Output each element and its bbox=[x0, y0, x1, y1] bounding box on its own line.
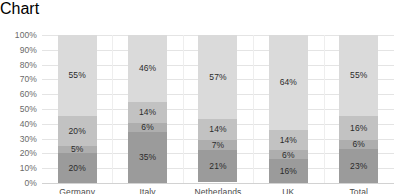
bar-segment[interactable]: 55% bbox=[339, 35, 378, 116]
bar-segment[interactable]: 5% bbox=[58, 146, 97, 153]
bar-segment[interactable]: 16% bbox=[339, 116, 378, 140]
stacked-bar[interactable]: 55%20%5%20% bbox=[58, 35, 97, 183]
bar-segment[interactable]: 6% bbox=[339, 140, 378, 149]
y-axis-tick-label: 30% bbox=[20, 134, 37, 144]
bar-segment[interactable]: 35% bbox=[128, 132, 167, 183]
bar-segment-value-label: 55% bbox=[350, 71, 367, 80]
bar-column: 64%14%6%16% bbox=[253, 35, 323, 183]
bar-column: 46%14%6%35% bbox=[112, 35, 182, 183]
bar-segment[interactable]: 14% bbox=[269, 130, 308, 151]
bar-segment[interactable]: 6% bbox=[128, 123, 167, 132]
y-axis-tick-label: 80% bbox=[20, 60, 37, 70]
x-axis-category-label: Italy bbox=[112, 187, 182, 194]
bar-segment-value-label: 14% bbox=[139, 108, 156, 117]
stacked-bar-chart: 100%90%80%70%60%50%40%30%20%10%0% 55%20%… bbox=[0, 18, 407, 194]
bar-segment[interactable]: 20% bbox=[58, 116, 97, 146]
bar-segment-value-label: 6% bbox=[353, 140, 366, 149]
y-axis-tick-label: 10% bbox=[20, 163, 37, 173]
bar-segment-value-label: 55% bbox=[69, 71, 86, 80]
bar-segment-value-label: 14% bbox=[209, 125, 226, 134]
bar-segment[interactable]: 21% bbox=[198, 150, 237, 181]
bar-segment[interactable]: 57% bbox=[198, 35, 237, 119]
bar-segment-value-label: 57% bbox=[209, 73, 226, 82]
bar-segment[interactable]: 7% bbox=[198, 140, 237, 150]
bar-segment-value-label: 21% bbox=[209, 162, 226, 171]
bar-segment-value-label: 64% bbox=[280, 78, 297, 87]
bar-segment[interactable]: 23% bbox=[339, 149, 378, 183]
bar-segment[interactable]: 55% bbox=[58, 35, 97, 116]
x-axis-category-label: Netherlands bbox=[183, 187, 253, 194]
stacked-bar[interactable]: 46%14%6%35% bbox=[128, 35, 167, 183]
x-axis-category-label: Germany bbox=[42, 187, 112, 194]
y-axis-tick-label: 70% bbox=[20, 74, 37, 84]
bar-column: 55%16%6%23% bbox=[324, 35, 394, 183]
bar-segment-value-label: 16% bbox=[350, 124, 367, 133]
y-axis-tick-label: 90% bbox=[20, 45, 37, 55]
y-axis-tick-label: 20% bbox=[20, 148, 37, 158]
bar-segment[interactable]: 64% bbox=[269, 35, 308, 130]
bar-segment-value-label: 14% bbox=[280, 136, 297, 145]
plot-area: 100%90%80%70%60%50%40%30%20%10%0% 55%20%… bbox=[42, 35, 394, 183]
bar-segment-value-label: 6% bbox=[282, 151, 295, 160]
bars-group: 55%20%5%20%46%14%6%35%57%14%7%21%64%14%6… bbox=[42, 35, 394, 183]
bar-segment-value-label: 46% bbox=[139, 64, 156, 73]
bar-segment[interactable]: 14% bbox=[128, 102, 167, 123]
stacked-bar[interactable]: 57%14%7%21% bbox=[198, 35, 237, 183]
stacked-bar[interactable]: 64%14%6%16% bbox=[269, 35, 308, 183]
bar-segment[interactable]: 46% bbox=[128, 35, 167, 102]
y-axis-tick-label: 50% bbox=[20, 104, 37, 114]
bar-segment[interactable]: 6% bbox=[269, 150, 308, 159]
y-axis-tick-label: 0% bbox=[25, 178, 38, 188]
bar-segment[interactable]: 20% bbox=[58, 153, 97, 183]
bar-segment-value-label: 7% bbox=[212, 141, 225, 150]
bar-segment-value-label: 20% bbox=[69, 127, 86, 136]
stacked-bar[interactable]: 55%16%6%23% bbox=[339, 35, 378, 183]
bar-segment-value-label: 6% bbox=[141, 123, 154, 132]
x-axis-category-labels: GermanyItalyNetherlandsUKTotal bbox=[42, 187, 394, 194]
x-axis-category-label: Total bbox=[324, 187, 394, 194]
y-axis-tick-label: 100% bbox=[15, 30, 37, 40]
bar-segment[interactable]: 16% bbox=[269, 159, 308, 183]
bar-column: 57%14%7%21% bbox=[183, 35, 253, 183]
bar-segment-value-label: 20% bbox=[69, 164, 86, 173]
bar-segment-value-label: 35% bbox=[139, 153, 156, 162]
bar-column: 55%20%5%20% bbox=[42, 35, 112, 183]
bar-segment-value-label: 16% bbox=[280, 167, 297, 176]
x-axis-category-label: UK bbox=[253, 187, 323, 194]
bar-segment[interactable]: 14% bbox=[198, 119, 237, 140]
gridline bbox=[42, 183, 394, 184]
bar-segment-value-label: 23% bbox=[350, 162, 367, 171]
y-axis-tick-label: 60% bbox=[20, 89, 37, 99]
y-axis-tick-label: 40% bbox=[20, 119, 37, 129]
